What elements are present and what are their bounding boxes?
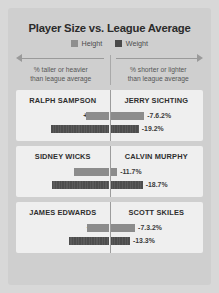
square-swatch-icon: [115, 40, 122, 47]
player-name-left: JAMES EDWARDS: [16, 208, 110, 217]
player-name-left: SIDNEY WICKS: [16, 152, 110, 161]
arrow-right-icon: [197, 54, 203, 62]
player-card: SIDNEY WICKSCALVIN MURPHY+2.5%-11.7%+10.…: [16, 146, 203, 197]
arrow-right-row: [114, 54, 204, 63]
axis-half-right: % shorter or lighter than league average: [110, 54, 204, 86]
axis-caption-right: % shorter or lighter than league average: [114, 65, 204, 83]
legend-label-weight: Weight: [126, 39, 148, 48]
axis-caption-right-line2: than league average: [114, 74, 204, 83]
bar-height-right: [74, 168, 110, 176]
bar-value-weight-right: -18.7%: [146, 181, 168, 188]
bar-value-height-right: -7.3.2%: [138, 224, 162, 231]
chart-root: Player Size vs. League Average Height We…: [0, 0, 219, 293]
legend-item-height: Height: [71, 39, 102, 48]
axis-caption-right-line1: % shorter or lighter: [114, 65, 204, 74]
legend-label-height: Height: [81, 39, 102, 48]
player-name-right: JERRY SICHTING: [110, 96, 204, 105]
bar-height-left: [110, 168, 118, 176]
bar-value-height-right: -7.6.2%: [147, 112, 171, 119]
bar-value-height-right: -11.7%: [120, 168, 141, 175]
bar-value-weight-right: -19.2%: [142, 125, 164, 132]
card-center-line: [110, 146, 111, 197]
player-name-left: RALPH SAMPSON: [16, 96, 110, 105]
bar-weight-left: [110, 181, 143, 189]
axis-center-divider: [110, 55, 111, 85]
axis-caption-left-line2: than league average: [16, 74, 106, 83]
bar-value-weight-right: -13.3%: [133, 237, 155, 244]
axis-line-left: [21, 58, 104, 59]
player-card-list: RALPH SAMPSONJERRY SICHTING+11.4%-7.6.2%…: [16, 90, 203, 258]
bar-height-right: [86, 112, 109, 120]
chart-panel: Player Size vs. League Average Height We…: [8, 8, 211, 285]
player-card: JAMES EDWARDSSCOTT SKILES+8.4%-7.3.2%+6.…: [16, 202, 203, 253]
bar-weight-left: [110, 237, 130, 245]
axis-half-left: % taller or heavier than league average: [16, 54, 110, 86]
player-name-right: CALVIN MURPHY: [110, 152, 204, 161]
page-title: Player Size vs. League Average: [8, 22, 211, 34]
arrow-left-row: [16, 54, 106, 63]
bar-height-left: [110, 112, 145, 120]
axis-caption-left-line1: % taller or heavier: [16, 65, 106, 74]
bar-height-left: [110, 224, 136, 232]
bar-weight-left: [110, 125, 139, 133]
card-center-line: [110, 202, 111, 253]
player-card: RALPH SAMPSONJERRY SICHTING+11.4%-7.6.2%…: [16, 90, 203, 141]
legend: Height Weight: [8, 39, 211, 48]
bar-weight-right: [51, 125, 110, 133]
card-center-line: [110, 90, 111, 141]
bar-weight-right: [69, 237, 110, 245]
axis-caption-left: % taller or heavier than league average: [16, 65, 106, 83]
bar-weight-right: [52, 181, 109, 189]
player-name-right: SCOTT SKILES: [110, 208, 204, 217]
axis-line-right: [116, 58, 199, 59]
square-swatch-icon: [71, 40, 78, 47]
bar-height-right: [87, 224, 109, 232]
legend-item-weight: Weight: [115, 39, 148, 48]
